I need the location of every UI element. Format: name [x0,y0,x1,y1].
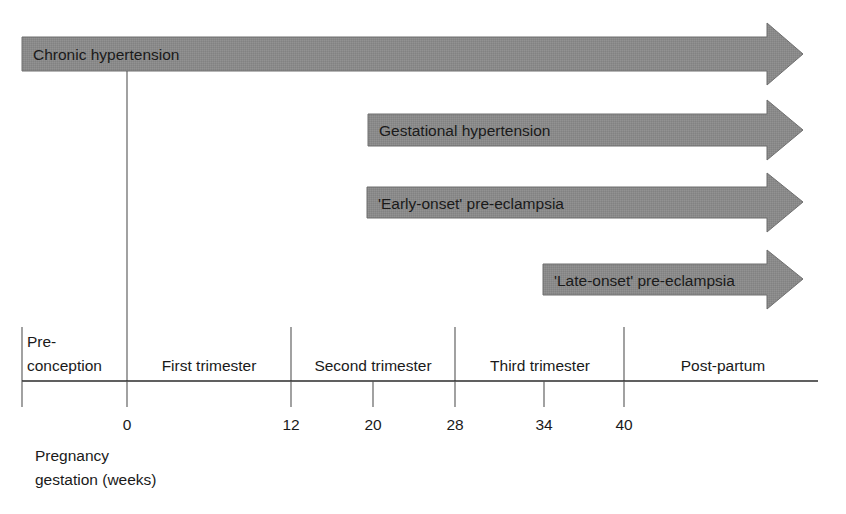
bar-label-early-onset-pre-eclampsia: 'Early-onset' pre-eclampsia [378,195,564,212]
bar-chronic-hypertension: Chronic hypertension [22,23,803,85]
bar-gestational-hypertension: Gestational hypertension [368,100,803,160]
bar-label-chronic-hypertension: Chronic hypertension [33,46,179,63]
band-label-third-trimester: Third trimester [490,357,590,374]
tick-label-34: 34 [535,416,553,433]
pregnancy-hypertension-timeline-figure: Chronic hypertension Gestational hyperte… [0,0,846,514]
band-label-post-partum: Post-partum [681,357,765,374]
band-label-first-trimester: First trimester [162,357,257,374]
bar-early-onset-pre-eclampsia: 'Early-onset' pre-eclampsia [367,173,803,232]
tick-label-28: 28 [446,416,463,433]
tick-label-20: 20 [364,416,382,433]
axis-caption-line1: Pregnancy [35,447,109,464]
bar-label-gestational-hypertension: Gestational hypertension [379,122,550,139]
band-label-second-trimester: Second trimester [314,357,431,374]
bar-label-late-onset-pre-eclampsia: 'Late-onset' pre-eclampsia [554,272,735,289]
tick-label-0: 0 [123,416,132,433]
tick-label-40: 40 [615,416,633,433]
band-label-preconception-line2: conception [27,357,102,374]
timeline-svg: Chronic hypertension Gestational hyperte… [0,0,846,514]
axis-caption-line2: gestation (weeks) [35,471,156,488]
tick-label-12: 12 [282,416,299,433]
band-label-preconception-line1: Pre- [27,333,56,350]
bar-late-onset-pre-eclampsia: 'Late-onset' pre-eclampsia [543,250,803,309]
